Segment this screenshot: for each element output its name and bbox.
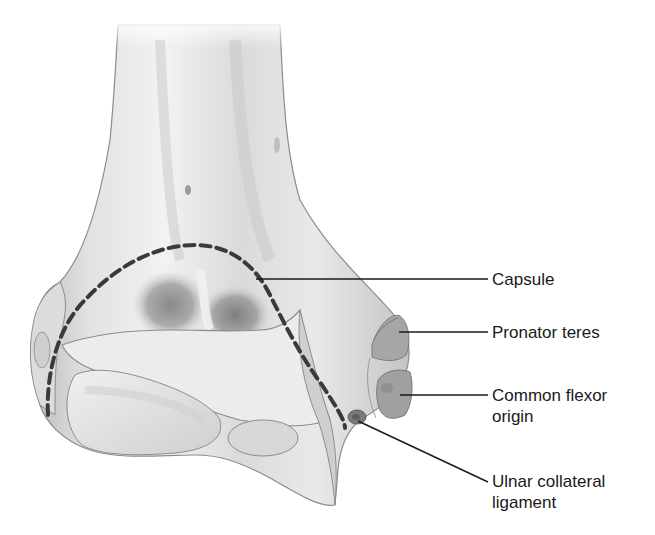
nutrient-foramen xyxy=(185,185,191,195)
common-flexor-origin-area xyxy=(377,370,412,418)
ucl-attachment-core xyxy=(352,414,360,420)
lateral-epicondyle-facet xyxy=(34,332,50,368)
label-common-flexor-line2: origin xyxy=(492,406,607,427)
label-capsule-text: Capsule xyxy=(492,270,554,289)
trochlea-groove xyxy=(228,420,298,456)
anatomy-figure: Capsule Pronator teres Common flexor ori… xyxy=(0,0,655,535)
label-ulnar-collateral-ligament: Ulnar collateral ligament xyxy=(492,471,605,513)
flexor-inner-shade xyxy=(381,383,393,393)
label-ucl-line2: ligament xyxy=(492,492,605,513)
label-pronator-teres: Pronator teres xyxy=(492,322,600,343)
distal-humerus-illustration xyxy=(0,0,655,535)
ucl-leader-line xyxy=(358,421,488,482)
shaft-top-fade xyxy=(100,18,300,48)
shading-mark xyxy=(274,137,280,153)
label-common-flexor-origin: Common flexor origin xyxy=(492,385,607,427)
label-ucl-line1: Ulnar collateral xyxy=(492,471,605,492)
label-pronator-teres-text: Pronator teres xyxy=(492,323,600,342)
label-common-flexor-line1: Common flexor xyxy=(492,385,607,406)
label-capsule: Capsule xyxy=(492,269,554,290)
